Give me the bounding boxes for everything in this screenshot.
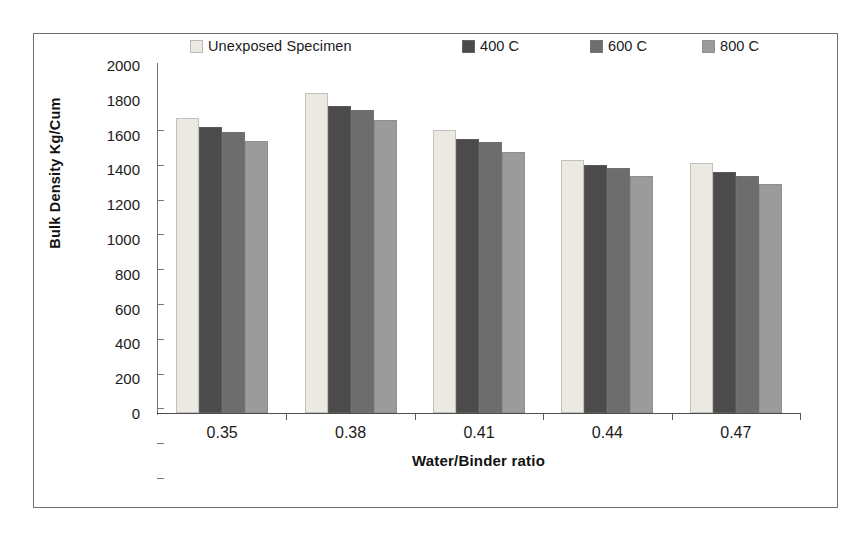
y-axis-tick-label: 1600	[107, 126, 140, 143]
y-axis-title: Bulk Density Kg/Cum	[47, 48, 63, 298]
x-axis-line	[157, 413, 800, 414]
x-axis-tick-label: 0.44	[592, 424, 623, 442]
bar	[630, 176, 653, 413]
bar	[584, 165, 607, 413]
x-axis-tick-mark	[672, 413, 673, 420]
bar	[479, 142, 502, 413]
y-axis-tick-label: 2000	[107, 57, 140, 74]
y-axis-tick-label: 1800	[107, 91, 140, 108]
x-axis-tick-mark	[415, 413, 416, 420]
y-axis-tick-label: 1400	[107, 161, 140, 178]
y-axis-tick-label: 200	[115, 370, 140, 387]
bar-group	[543, 65, 671, 413]
x-axis-tick-mark	[800, 413, 801, 420]
y-axis-tick-labels: 0200400600800100012001400160018002000	[78, 65, 150, 413]
y-axis-tick-label: 1000	[107, 231, 140, 248]
bar-group	[415, 65, 543, 413]
bars-plot-area	[158, 65, 800, 413]
x-axis-title: Water/Binder ratio	[157, 452, 800, 469]
y-axis-tick-mark	[157, 478, 164, 479]
y-axis-tick-label: 1200	[107, 196, 140, 213]
bar	[713, 172, 736, 413]
bar	[502, 152, 525, 413]
bar	[759, 184, 782, 413]
bar	[607, 168, 630, 413]
bar	[374, 120, 397, 413]
bar	[328, 106, 351, 413]
y-axis-tick-label: 400	[115, 335, 140, 352]
bar	[561, 160, 584, 413]
x-axis-tick-label: 0.35	[207, 424, 238, 442]
y-axis-tick-mark	[157, 443, 164, 444]
bar	[433, 130, 456, 413]
x-axis-tick-label: 0.47	[720, 424, 751, 442]
bar	[690, 163, 713, 413]
bar	[222, 132, 245, 413]
bar	[199, 127, 222, 413]
y-axis-tick-label: 600	[115, 300, 140, 317]
x-axis-tick-mark	[543, 413, 544, 420]
bar-group	[158, 65, 286, 413]
bar	[245, 141, 268, 413]
x-axis-tick-mark	[286, 413, 287, 420]
x-axis-tick-label: 0.41	[463, 424, 494, 442]
y-axis-tick-label: 800	[115, 265, 140, 282]
bar-group	[672, 65, 800, 413]
bar	[176, 118, 199, 413]
bar	[736, 176, 759, 413]
bar	[305, 93, 328, 413]
bar	[351, 110, 374, 413]
y-axis-tick-label: 0	[132, 405, 140, 422]
bar	[456, 139, 479, 413]
plot-wrapper: Bulk Density Kg/Cum 02004006008001000120…	[0, 0, 865, 542]
bar-group	[286, 65, 414, 413]
x-axis-tick-label: 0.38	[335, 424, 366, 442]
figure-canvas: Unexposed Specimen400 C600 C800 C Bulk D…	[0, 0, 865, 542]
